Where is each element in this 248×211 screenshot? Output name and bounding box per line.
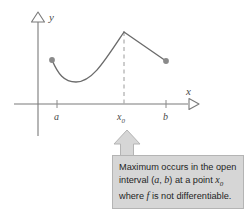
tick-label-a: a bbox=[54, 111, 59, 122]
caption-var-x0: x0 bbox=[215, 174, 223, 185]
caption-line-2-post: ) at a point bbox=[169, 175, 215, 185]
arrow-up-callout-icon bbox=[114, 130, 140, 157]
x-axis-label: x bbox=[185, 85, 191, 97]
caption-line-3-post: is not differentiable. bbox=[149, 191, 231, 201]
function-curve bbox=[52, 32, 124, 82]
caption-line-3-pre: where bbox=[119, 191, 147, 201]
caption-line-3: where f is not differentiable. bbox=[119, 190, 237, 203]
right-endpoint-dot bbox=[163, 58, 169, 64]
caption-line-2: interval (a, b) at a point x0 bbox=[119, 174, 237, 191]
triangle-right-outline-icon bbox=[189, 99, 199, 110]
figure-container: y x a x0 b Maximum occurs in the open in… bbox=[0, 0, 248, 211]
tick-label-x0-sub: 0 bbox=[121, 117, 125, 125]
function-line-segment bbox=[124, 32, 166, 61]
y-axis-label: y bbox=[48, 11, 54, 23]
caption-line-2-pre: interval ( bbox=[119, 175, 154, 185]
caption-line-1: Maximum occurs in the open bbox=[119, 161, 237, 174]
callout-box: Maximum occurs in the open interval (a, … bbox=[112, 155, 244, 209]
triangle-up-outline-icon bbox=[32, 12, 45, 22]
left-endpoint-dot bbox=[49, 57, 55, 63]
tick-label-b: b bbox=[163, 111, 168, 122]
tick-label-x0: x0 bbox=[116, 111, 125, 125]
caption-var-x0-sub: 0 bbox=[220, 180, 224, 188]
